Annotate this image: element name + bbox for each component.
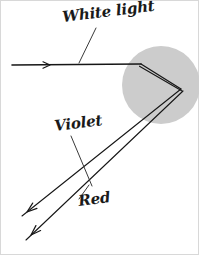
red-exit-ray <box>26 91 183 240</box>
violet-label: Violet <box>53 111 103 135</box>
rainbow-dispersion-diagram: White light Violet Red <box>0 0 199 255</box>
diagram-canvas: White light Violet Red <box>0 0 199 255</box>
white-light-incident-ray <box>12 64 141 65</box>
red-label: Red <box>76 188 112 210</box>
violet-leader-line <box>71 136 92 186</box>
white-light-leader-line <box>79 28 96 63</box>
white-light-label: White light <box>61 0 155 26</box>
